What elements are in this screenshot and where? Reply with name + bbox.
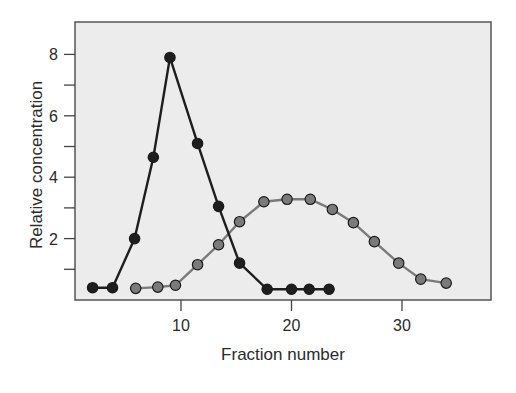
data-point — [416, 274, 426, 284]
data-point — [130, 283, 140, 293]
x-axis-label: Fraction number — [221, 345, 345, 364]
data-point — [304, 284, 314, 294]
data-point — [282, 194, 292, 204]
x-axis: 102030 — [172, 300, 411, 334]
data-point — [87, 283, 97, 293]
data-point — [165, 52, 175, 62]
data-point — [234, 217, 244, 227]
data-point — [286, 284, 296, 294]
data-point — [153, 282, 163, 292]
data-point — [170, 280, 180, 290]
y-axis-label: Relative concentration — [27, 81, 46, 249]
data-point — [324, 284, 334, 294]
plot-area — [75, 22, 491, 300]
data-point — [305, 194, 315, 204]
data-point — [213, 201, 223, 211]
data-point — [262, 284, 272, 294]
y-tick-label: 8 — [49, 46, 58, 63]
data-point — [348, 217, 358, 227]
y-tick-label: 2 — [49, 231, 58, 248]
x-tick-label: 20 — [283, 317, 301, 334]
data-point — [393, 258, 403, 268]
data-point — [234, 258, 244, 268]
y-axis: 2468 — [49, 46, 75, 269]
data-point — [192, 138, 202, 148]
data-point — [441, 278, 451, 288]
data-point — [369, 236, 379, 246]
data-point — [129, 233, 139, 243]
data-point — [327, 204, 337, 214]
data-point — [213, 240, 223, 250]
data-point — [259, 197, 269, 207]
data-point — [107, 283, 117, 293]
x-tick-label: 30 — [393, 317, 411, 334]
line-chart: 2468 102030 Fraction number Relative con… — [0, 0, 516, 393]
y-tick-label: 4 — [49, 169, 58, 186]
data-point — [148, 152, 158, 162]
y-tick-label: 6 — [49, 108, 58, 125]
data-point — [192, 259, 202, 269]
x-tick-label: 10 — [172, 317, 190, 334]
